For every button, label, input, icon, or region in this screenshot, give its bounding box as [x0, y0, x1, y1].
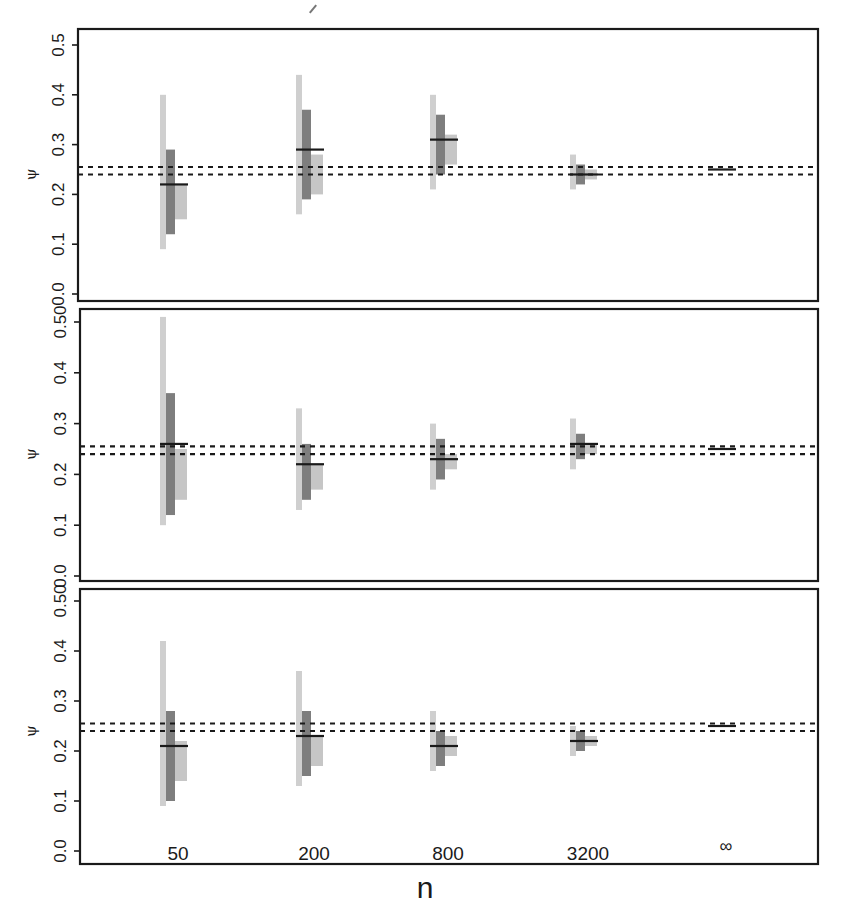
- side-interval-bar: [311, 736, 323, 766]
- side-interval-bar: [311, 464, 323, 489]
- x-tick-label: 3200: [567, 843, 609, 864]
- x-axis-title: n: [417, 871, 434, 904]
- y-tick-label: 0.0: [51, 564, 70, 588]
- panel-3: 0.00.10.20.30.40.50ψ502008003200∞: [22, 584, 818, 864]
- side-interval-bar: [445, 454, 457, 469]
- y-tick-label: 0.1: [49, 232, 68, 256]
- interval-group-n-200: [296, 671, 324, 786]
- y-tick-label: 0.1: [51, 513, 70, 537]
- y-tick-label: 0.2: [49, 183, 68, 207]
- wide-interval-bar: [296, 408, 302, 510]
- inner-interval-bar: [302, 444, 311, 500]
- y-tick-label: 0.3: [51, 689, 70, 713]
- interval-group-n-800: [430, 711, 458, 771]
- figure: 0.00.10.20.30.40.5ψ0.00.10.20.30.40.50ψ0…: [0, 0, 847, 909]
- panel-1: 0.00.10.20.30.40.5ψ: [22, 29, 818, 306]
- x-tick-label: 50: [167, 843, 188, 864]
- inner-interval-bar: [302, 110, 311, 200]
- x-tick-label: 200: [298, 843, 330, 864]
- y-tick-label: 0.50: [51, 584, 70, 617]
- y-tick-label: 0.0: [51, 839, 70, 863]
- interval-group-n-800: [430, 424, 458, 490]
- wide-interval-bar: [430, 711, 436, 771]
- interval-group-n-800: [430, 95, 458, 190]
- inner-interval-bar: [436, 115, 445, 175]
- panel-2: 0.00.10.20.30.40.50ψ: [22, 305, 818, 587]
- interval-group-n-200: [296, 408, 324, 510]
- side-interval-bar: [175, 449, 187, 500]
- y-tick-label: 0.50: [51, 305, 70, 338]
- wide-interval-bar: [160, 95, 166, 249]
- x-tick-label: ∞: [720, 836, 733, 856]
- interval-group-n-3200: [570, 419, 598, 470]
- wide-interval-bar: [570, 155, 576, 190]
- interval-group-n-3200: [570, 155, 598, 190]
- wide-interval-bar: [296, 671, 302, 786]
- y-axis-title: ψ: [22, 725, 40, 737]
- x-tick-label: 800: [432, 843, 464, 864]
- y-tick-label: 0.3: [51, 412, 70, 436]
- plot-frame: [80, 309, 818, 581]
- plot-frame: [78, 29, 818, 301]
- inner-interval-bar: [436, 731, 445, 766]
- interval-group-n-200: [296, 75, 324, 214]
- y-tick-label: 0.4: [49, 83, 68, 107]
- interval-group-n-50: [160, 317, 188, 525]
- wide-interval-bar: [160, 317, 166, 525]
- side-interval-bar: [175, 184, 187, 219]
- plot-frame: [80, 589, 818, 864]
- y-axis-title: ψ: [22, 448, 40, 460]
- y-tick-label: 0.4: [51, 639, 70, 663]
- y-axis-title: ψ: [22, 169, 40, 181]
- y-tick-label: 0.3: [49, 133, 68, 157]
- y-tick-label: 0.0: [49, 282, 68, 306]
- wide-interval-bar: [296, 75, 302, 214]
- inner-interval-bar: [166, 150, 175, 235]
- interval-group-n-50: [160, 95, 188, 249]
- y-tick-label: 0.5: [49, 33, 68, 57]
- y-tick-label: 0.2: [51, 463, 70, 487]
- y-tick-label: 0.1: [51, 789, 70, 813]
- y-tick-label: 0.2: [51, 739, 70, 763]
- y-tick-label: 0.4: [51, 361, 70, 385]
- wide-interval-bar: [430, 424, 436, 490]
- inner-interval-bar: [302, 711, 311, 776]
